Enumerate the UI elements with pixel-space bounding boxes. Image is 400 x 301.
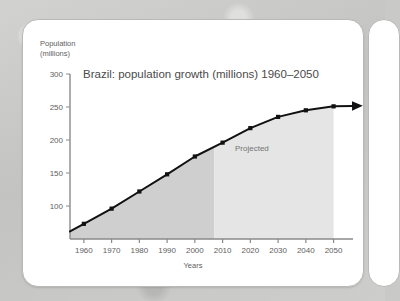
x-tick-label: 1970 xyxy=(103,246,121,255)
chart-title: Brazil: population growth (millions) 196… xyxy=(83,68,319,80)
x-tick-label: 1980 xyxy=(130,246,148,255)
shaded-region-projected xyxy=(214,106,333,239)
data-point-marker xyxy=(137,189,141,193)
x-tick-label: 2000 xyxy=(186,246,204,255)
data-point-marker xyxy=(193,154,197,158)
chart-figure: 100150200250300 196019701980199020002010… xyxy=(23,20,363,286)
data-point-marker xyxy=(110,207,114,211)
x-tick-label: 1990 xyxy=(158,246,176,255)
shaded-region-historic xyxy=(70,147,214,239)
y-tick-label: 150 xyxy=(50,169,64,178)
x-tick-label: 2040 xyxy=(297,246,315,255)
x-axis-ticks: 1960197019801990200020102020203020402050 xyxy=(75,239,343,255)
data-point-marker xyxy=(276,115,280,119)
y-tick-label: 200 xyxy=(50,136,64,145)
y-axis-title: Population (millions) xyxy=(40,39,75,58)
y-tick-label: 300 xyxy=(50,70,64,79)
x-tick-label: 2030 xyxy=(269,246,287,255)
x-tick-label: 2010 xyxy=(214,246,232,255)
data-point-marker xyxy=(248,126,252,130)
data-point-marker xyxy=(82,222,86,226)
x-tick-label: 2050 xyxy=(325,246,343,255)
data-point-marker xyxy=(331,104,335,108)
y-tick-label: 250 xyxy=(50,103,64,112)
population-line-chart: 100150200250300 196019701980199020002010… xyxy=(23,20,363,286)
chart-panel: 100150200250300 196019701980199020002010… xyxy=(22,19,364,287)
x-axis-title: Years xyxy=(23,261,363,271)
adjacent-panel-edge xyxy=(368,19,400,287)
x-tick-label: 2020 xyxy=(241,246,259,255)
data-point-marker xyxy=(165,172,169,176)
shaded-regions xyxy=(70,106,334,239)
y-axis-ticks: 100150200250300 xyxy=(50,70,70,211)
x-tick-label: 1960 xyxy=(75,246,93,255)
projected-annotation-label: Projected xyxy=(235,144,269,153)
data-point-marker xyxy=(221,141,225,145)
y-axis-title-line2: (millions) xyxy=(40,49,75,59)
y-tick-label: 100 xyxy=(50,202,64,211)
data-point-marker xyxy=(304,108,308,112)
y-axis-title-line1: Population xyxy=(40,39,75,49)
